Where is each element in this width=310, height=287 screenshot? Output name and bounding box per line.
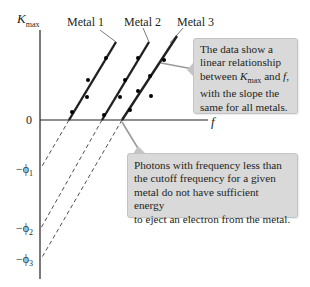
- slope-callout: The data show a linear relationship betw…: [193, 38, 298, 114]
- phi-3-label: −ϕ3: [16, 253, 33, 268]
- metal-2-leader: [143, 28, 149, 42]
- bottom-callout-pointer: [122, 122, 146, 154]
- y-axis-label: Kmax: [17, 12, 39, 29]
- metal-1-leader: [100, 30, 116, 42]
- top-callout-pointer: [161, 63, 193, 76]
- metal-3-label: Metal 3: [177, 16, 214, 28]
- phi-1-label: −ϕ1: [16, 163, 33, 178]
- metal-2-label: Metal 2: [124, 16, 161, 28]
- metal-1-label: Metal 1: [67, 16, 104, 28]
- cutoff-callout: Photons with frequency less than the cut…: [127, 153, 298, 218]
- x-axis-label: f: [211, 115, 215, 128]
- origin-label: 0: [26, 114, 32, 126]
- metal-1-series: [41, 42, 116, 168]
- phi-2-label: −ϕ2: [16, 222, 33, 237]
- metal-3-leader: [170, 28, 183, 43]
